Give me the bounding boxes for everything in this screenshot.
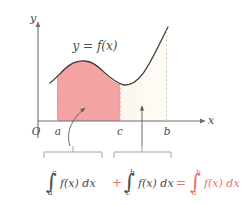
bracket-a-to-c xyxy=(44,146,102,158)
integral-lower-1: a xyxy=(48,188,52,197)
integral-upper-2: b xyxy=(130,168,135,177)
integral-body-3: f(x) dx xyxy=(203,177,240,190)
tick-label-c: c xyxy=(117,125,123,137)
curve-equation-label: y = f(x) xyxy=(71,39,117,53)
integral-body-1: f(x) dx xyxy=(59,177,96,190)
tick-label-a: a xyxy=(55,125,61,137)
region-a-to-c xyxy=(50,61,120,121)
equals-operator: = xyxy=(176,176,186,190)
bracket-c-to-b xyxy=(114,146,171,158)
formula-term-1: ∫ c a f(x) dx xyxy=(46,168,96,197)
plus-operator: + xyxy=(112,176,122,190)
origin-label: O xyxy=(32,125,41,137)
x-axis-label: x xyxy=(208,114,215,127)
figure-canvas: y x O a c b y = f(x) ∫ c a f(x) dx + ∫ b… xyxy=(0,0,248,205)
formula-term-3: ∫ b a f(x) dx xyxy=(190,168,240,197)
integral-upper-3: b xyxy=(196,168,201,177)
integral-additivity-figure: y x O a c b y = f(x) ∫ c a f(x) dx + ∫ b… xyxy=(0,0,248,205)
tick-label-b: b xyxy=(164,125,171,137)
integral-body-2: f(x) dx xyxy=(137,177,174,190)
y-axis-label: y xyxy=(29,12,37,25)
formula-term-2: ∫ b c f(x) dx xyxy=(124,168,174,197)
integral-lower-3: a xyxy=(192,188,196,197)
